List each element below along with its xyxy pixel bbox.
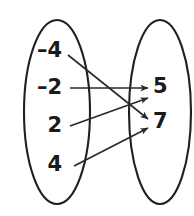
mapping-arrow-4-to-7: [74, 128, 148, 166]
mapping-diagram: –4 –2 2 4 5 7: [0, 0, 194, 216]
domain-element-4: 4: [47, 152, 62, 176]
domain-element-neg2: –2: [37, 75, 62, 99]
mapping-arrow-2-to-5: [70, 98, 148, 126]
range-element-5: 5: [153, 74, 168, 98]
diagram-canvas: –4 –2 2 4 5 7: [0, 0, 194, 216]
range-element-7: 7: [153, 109, 168, 133]
domain-element-2: 2: [47, 113, 62, 137]
domain-element-neg4: –4: [37, 38, 62, 62]
mapping-arrow-neg4-to-7: [68, 55, 148, 119]
